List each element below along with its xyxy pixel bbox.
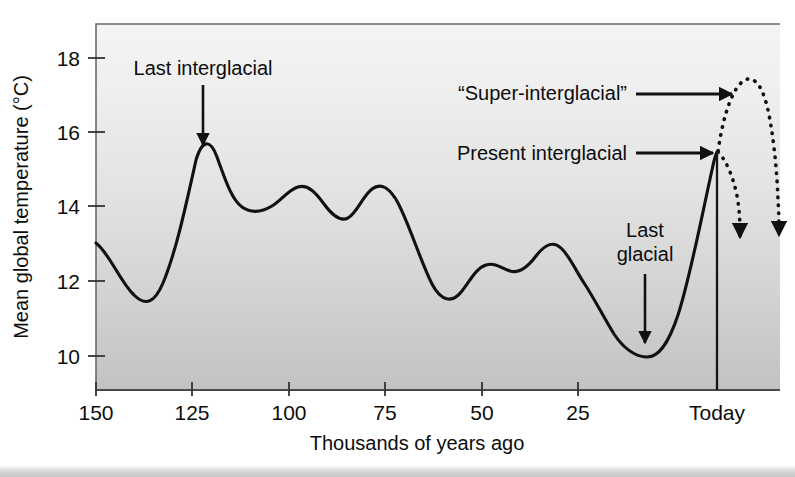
x-tick-label-125: 125 (174, 401, 209, 424)
y-tick-label-16: 16 (57, 121, 80, 144)
x-tick-label-75: 75 (373, 401, 396, 424)
annotation-label-last-interglacial: Last interglacial (134, 57, 273, 79)
annotation-label-last-glacial-line1: Last (626, 219, 664, 241)
y-tick-label-18: 18 (57, 47, 80, 70)
y-axis-title: Mean global temperature (°C) (10, 75, 32, 339)
y-tick-label-14: 14 (57, 195, 81, 218)
y-tick-label-10: 10 (57, 345, 80, 368)
climate-temperature-chart: 18 16 14 12 10 150 125 100 75 50 25 Toda… (0, 0, 795, 477)
x-tick-label-50: 50 (470, 401, 493, 424)
chart-svg: 18 16 14 12 10 150 125 100 75 50 25 Toda… (0, 0, 795, 477)
annotation-label-last-glacial-line2: glacial (617, 243, 674, 265)
annotation-label-present-interglacial: Present interglacial (457, 142, 627, 164)
x-tick-label-today: Today (689, 401, 746, 424)
x-tick-label-100: 100 (271, 401, 306, 424)
y-tick-label-12: 12 (57, 270, 80, 293)
x-tick-label-150: 150 (78, 401, 113, 424)
annotation-label-super-interglacial: “Super-interglacial” (458, 82, 627, 104)
x-axis-title: Thousands of years ago (310, 432, 525, 454)
figure-bottom-strip (0, 465, 795, 477)
x-tick-label-25: 25 (566, 401, 589, 424)
